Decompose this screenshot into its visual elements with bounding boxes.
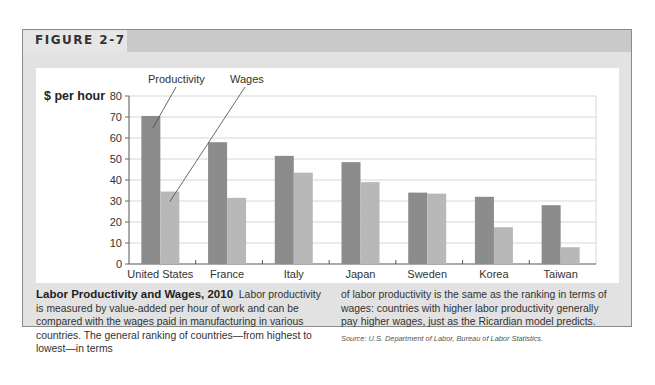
bar-productivity bbox=[542, 205, 561, 264]
y-tick-label: 0 bbox=[116, 258, 122, 270]
bar-wages bbox=[227, 198, 246, 264]
figure-frame: FIGURE 2-7 01020304050607080$ per hourUn… bbox=[22, 29, 632, 327]
x-tick-label: Taiwan bbox=[544, 268, 578, 280]
bar-wages bbox=[494, 227, 513, 264]
bar-productivity bbox=[342, 162, 361, 264]
caption-body-right: of labor productivity is the same as the… bbox=[341, 288, 611, 329]
bar-wages bbox=[361, 182, 380, 264]
y-tick-label: 10 bbox=[110, 237, 122, 249]
annotation-wages: Wages bbox=[230, 73, 264, 85]
x-tick-label: United States bbox=[127, 268, 194, 280]
source-note: Source: U.S. Department of Labor, Bureau… bbox=[341, 332, 611, 346]
annotation-productivity: Productivity bbox=[148, 73, 205, 85]
y-tick-label: 30 bbox=[110, 195, 122, 207]
figure-header: FIGURE 2-7 bbox=[23, 30, 631, 52]
y-tick-label: 50 bbox=[110, 153, 122, 165]
y-tick-label: 40 bbox=[110, 174, 122, 186]
bar-wages bbox=[160, 192, 179, 264]
x-tick-label: Sweden bbox=[407, 268, 447, 280]
bar-productivity bbox=[208, 142, 227, 264]
bar-productivity bbox=[475, 197, 494, 264]
y-tick-label: 70 bbox=[110, 111, 122, 123]
x-tick-label: Korea bbox=[479, 268, 509, 280]
y-tick-label: 80 bbox=[110, 90, 122, 102]
annotation-leader-productivity bbox=[153, 87, 176, 128]
bar-wages bbox=[294, 173, 313, 264]
bar-wages bbox=[427, 194, 446, 264]
caption-left-column: Labor Productivity and Wages, 2010 Labor… bbox=[36, 288, 326, 356]
figure-header-bar bbox=[127, 30, 631, 52]
bar-productivity bbox=[141, 116, 160, 264]
x-tick-label: France bbox=[210, 268, 244, 280]
annotation-leader-wages bbox=[170, 87, 245, 202]
y-tick-label: 60 bbox=[110, 132, 122, 144]
x-tick-label: Japan bbox=[346, 268, 376, 280]
bar-productivity bbox=[275, 156, 294, 264]
y-axis-label: $ per hour bbox=[44, 89, 105, 103]
figure-number: FIGURE 2-7 bbox=[35, 33, 126, 47]
bar-chart: 01020304050607080$ per hourUnited States… bbox=[36, 68, 619, 283]
y-tick-label: 20 bbox=[110, 216, 122, 228]
caption-right-column: of labor productivity is the same as the… bbox=[341, 288, 611, 345]
bar-wages bbox=[561, 247, 580, 264]
chart-panel: 01020304050607080$ per hourUnited States… bbox=[36, 68, 619, 283]
x-tick-label: Italy bbox=[284, 268, 305, 280]
bar-productivity bbox=[408, 193, 427, 264]
caption-title: Labor Productivity and Wages, 2010 bbox=[36, 288, 233, 300]
